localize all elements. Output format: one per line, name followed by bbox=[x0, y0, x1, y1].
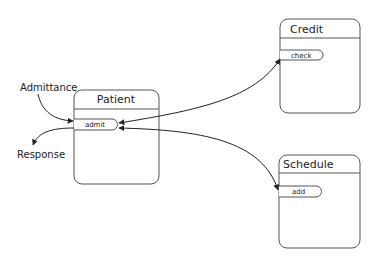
admittance-label: Admittance bbox=[20, 82, 78, 93]
check-method-label: check bbox=[291, 52, 312, 60]
response-label: Response bbox=[17, 149, 65, 160]
response-arrow bbox=[33, 128, 74, 145]
admit-method-label: admit bbox=[85, 121, 105, 129]
schedule-object: Schedule add bbox=[279, 155, 360, 248]
patient-title: Patient bbox=[97, 93, 136, 106]
schedule-title: Schedule bbox=[283, 158, 334, 171]
patient-object: Patient admit bbox=[74, 90, 159, 184]
credit-object: Credit check bbox=[280, 19, 360, 113]
add-method-label: add bbox=[292, 188, 305, 196]
admittance-arrow bbox=[38, 94, 73, 121]
credit-title: Credit bbox=[290, 23, 324, 36]
message-diagram: Patient admit Credit check Schedule add … bbox=[0, 0, 379, 262]
